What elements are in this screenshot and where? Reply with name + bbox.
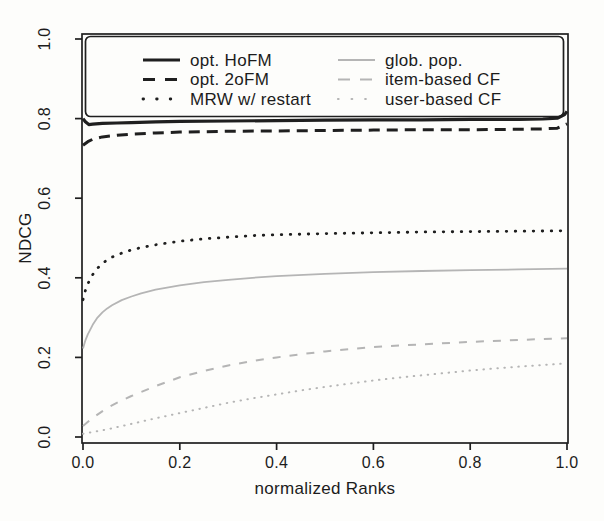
series-opt-2ofm-line <box>83 124 567 146</box>
x-tick-label: 0.0 <box>71 454 94 471</box>
x-tick-label: 0.4 <box>265 454 288 471</box>
chart-canvas: 0.00.20.40.60.81.00.00.20.40.60.81.0opt.… <box>0 0 604 521</box>
legend-label-user-based-cf: user-based CF <box>385 90 501 109</box>
series-glob-pop-line <box>83 269 567 349</box>
y-axis-title: NDCG <box>16 212 35 263</box>
y-tick-label: 0.2 <box>36 346 53 369</box>
legend-label-opt-2ofm: opt. 2oFM <box>190 70 269 89</box>
legend-label-glob-pop: glob. pop. <box>385 51 463 70</box>
series-user-based-cf-line <box>83 363 567 433</box>
y-tick-label: 0.4 <box>36 266 53 289</box>
series-item-based-cf-line <box>83 338 567 426</box>
x-axis-title: normalized Ranks <box>255 479 396 498</box>
legend-label-item-based-cf: item-based CF <box>385 70 500 89</box>
x-tick-label: 1.0 <box>555 454 578 471</box>
x-tick-label: 0.8 <box>459 454 482 471</box>
x-tick-label: 0.2 <box>168 454 191 471</box>
y-tick-label: 0.0 <box>36 425 53 448</box>
y-tick-label: 1.0 <box>36 27 53 50</box>
series-opt-hofm-line <box>83 111 567 124</box>
x-tick-label: 0.6 <box>362 454 385 471</box>
y-tick-label: 0.6 <box>36 187 53 210</box>
legend-label-mrw-w-restart: MRW w/ restart <box>190 90 311 109</box>
figure: 0.00.20.40.60.81.00.00.20.40.60.81.0opt.… <box>0 0 604 521</box>
legend-label-opt-hofm: opt. HoFM <box>190 51 272 70</box>
y-tick-label: 0.8 <box>36 107 53 130</box>
